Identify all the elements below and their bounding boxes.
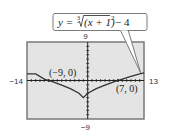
ymin-label: −9 (81, 123, 91, 132)
graph-figure: y = 3 (x + 1) 2 − 4 9 −9 −14 13 (−9, 0) … (0, 0, 169, 137)
equation-label: y = (57, 16, 73, 28)
point-x-intercept-right (117, 79, 120, 82)
xmin-label: −14 (9, 77, 23, 86)
point-x-intercept-left (47, 79, 50, 82)
point-label-right: (7, 0) (116, 83, 138, 95)
ymax-label: 9 (83, 32, 88, 41)
point-label-left: (−9, 0) (49, 67, 76, 79)
radical-index: 3 (77, 15, 80, 21)
xmax-label: 13 (149, 77, 158, 86)
equation-suffix: − 4 (115, 16, 130, 28)
